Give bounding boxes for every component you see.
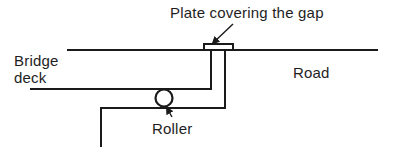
bridge-label: Bridge xyxy=(14,52,59,69)
road-label: Road xyxy=(293,64,330,81)
expansion-joint-diagram: Plate covering the gap Bridge deck Road … xyxy=(0,0,394,168)
roller-pointer-arrow xyxy=(167,108,172,117)
deck-label: deck xyxy=(14,69,47,86)
plate-pointer-arrow xyxy=(213,24,233,43)
gap-cover-plate xyxy=(204,44,233,50)
roller-circle xyxy=(156,90,173,107)
roller-label: Roller xyxy=(152,120,192,137)
diagram-canvas xyxy=(0,0,394,168)
plate-label: Plate covering the gap xyxy=(170,4,324,21)
